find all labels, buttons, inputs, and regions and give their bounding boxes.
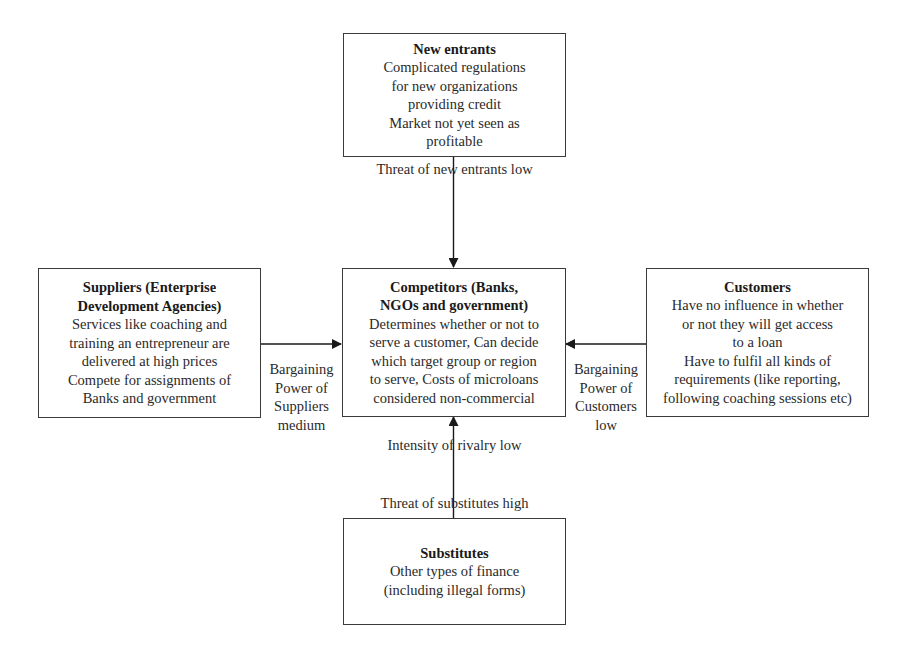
suppliers-text: delivered at high prices: [82, 352, 218, 371]
customers-text: Have to fulfil all kinds of: [684, 352, 831, 371]
competitors-text: to serve, Costs of microloans: [370, 370, 539, 389]
suppliers-text: Services like coaching and: [72, 315, 227, 334]
suppliers-power-line: Suppliers: [261, 397, 342, 416]
customers-text: following coaching sessions etc): [663, 389, 852, 408]
customers-text: or not they will get access: [682, 315, 833, 334]
customers-text: to a loan: [733, 333, 783, 352]
suppliers-power-line: medium: [261, 416, 342, 435]
new-entrants-title: New entrants: [413, 40, 496, 59]
substitutes-box: Substitutes Other types of finance (incl…: [343, 518, 566, 625]
suppliers-text: training an entrepreneur are: [69, 334, 230, 353]
competitors-text: Determines whether or not to: [369, 315, 539, 334]
suppliers-power-line: Power of: [261, 379, 342, 398]
competitors-title: NGOs and government): [380, 296, 528, 315]
suppliers-text: Banks and government: [83, 389, 217, 408]
customers-power-label: Bargaining Power of Customers low: [566, 360, 646, 434]
suppliers-title: Development Agencies): [78, 297, 222, 316]
customers-power-line: Power of: [566, 379, 646, 398]
new-entrants-text: providing credit: [408, 95, 501, 114]
competitors-box: Competitors (Banks, NGOs and government)…: [342, 268, 566, 417]
competitors-title: Competitors (Banks,: [390, 278, 518, 297]
substitutes-text: (including illegal forms): [384, 581, 526, 600]
competitors-text: which target group or region: [371, 352, 537, 371]
suppliers-box: Suppliers (Enterprise Development Agenci…: [38, 268, 261, 418]
customers-text: requirements (like reporting,: [674, 370, 840, 389]
suppliers-text: Compete for assignments of: [68, 371, 231, 390]
new-entrants-text: for new organizations: [391, 77, 517, 96]
substitutes-title: Substitutes: [420, 544, 489, 563]
substitutes-text: Other types of finance: [390, 562, 519, 581]
customers-power-line: Customers: [566, 397, 646, 416]
threat-new-entrants-label: Threat of new entrants low: [343, 160, 566, 179]
suppliers-title: Suppliers (Enterprise: [83, 278, 216, 297]
new-entrants-text: Market not yet seen as: [389, 114, 519, 133]
customers-power-line: Bargaining: [566, 360, 646, 379]
competitors-text: considered non-commercial: [373, 389, 534, 408]
suppliers-power-label: Bargaining Power of Suppliers medium: [261, 360, 342, 434]
customers-power-line: low: [566, 416, 646, 435]
customers-box: Customers Have no influence in whether o…: [646, 268, 869, 417]
new-entrants-box: New entrants Complicated regulations for…: [343, 33, 566, 157]
customers-title: Customers: [724, 278, 791, 297]
threat-substitutes-label: Threat of substitutes high: [343, 494, 566, 513]
competitors-text: serve a customer, Can decide: [370, 333, 539, 352]
suppliers-power-line: Bargaining: [261, 360, 342, 379]
new-entrants-text: profitable: [426, 132, 482, 151]
new-entrants-text: Complicated regulations: [383, 58, 525, 77]
rivalry-label: Intensity of rivalry low: [343, 436, 566, 455]
customers-text: Have no influence in whether: [672, 296, 844, 315]
